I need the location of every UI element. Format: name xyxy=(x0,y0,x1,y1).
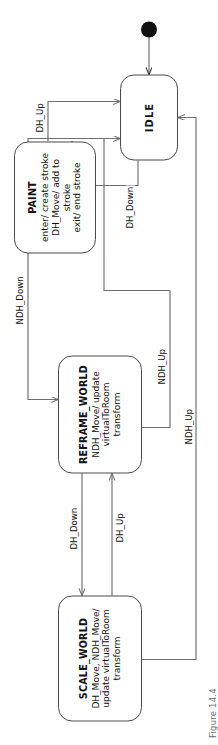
state-paint-body: enter/ create stroke DH_Move/ add to str… xyxy=(40,146,82,248)
initial-state-dot xyxy=(141,21,157,37)
state-diagram: SCALE_WORLD DH_Move, NDH_Move/ update vi… xyxy=(0,0,218,745)
edge-dh-up-paint-to-idle xyxy=(48,101,120,141)
state-scale-world-body: DH_Move, NDH_Move/ update virtualToRoom … xyxy=(91,608,123,708)
edge-label-dh-up-reframe: DH_Up xyxy=(116,512,125,543)
edge-label-ndh-up-scale: NDH_Up xyxy=(185,407,194,445)
state-paint-title: PAINT xyxy=(27,181,38,214)
diagram-rotor: SCALE_WORLD DH_Move, NDH_Move/ update vi… xyxy=(0,0,218,745)
state-paint[interactable]: PAINT enter/ create stroke DH_Move/ add … xyxy=(14,141,96,253)
edge-label-dh-up-idle: DH_Up xyxy=(36,102,45,133)
state-idle[interactable]: IDLE xyxy=(120,74,178,160)
state-scale-world-title: SCALE_WORLD xyxy=(78,617,89,698)
state-scale-world[interactable]: SCALE_WORLD DH_Move, NDH_Move/ update vi… xyxy=(58,595,142,721)
figure-caption: Figure 14.4 xyxy=(208,688,218,738)
edge-label-ndh-down: NDH_Down xyxy=(16,275,25,325)
edge-label-dh-down-paint: DH_Down xyxy=(126,185,135,229)
state-reframe-world-body: NDH_Move/ update virtualToRoom transform xyxy=(91,371,123,458)
state-reframe-world[interactable]: REFRAME_WORLD NDH_Move/ update virtualTo… xyxy=(58,355,142,473)
edge-label-dh-down-scale: DH_Down xyxy=(70,506,79,550)
state-idle-title: IDLE xyxy=(144,102,155,131)
state-reframe-world-title: REFRAME_WORLD xyxy=(78,365,89,464)
edge-label-ndh-up-reframe: NDH_Up xyxy=(158,347,167,385)
edge-ndh-up-scale-to-idle xyxy=(142,117,196,659)
